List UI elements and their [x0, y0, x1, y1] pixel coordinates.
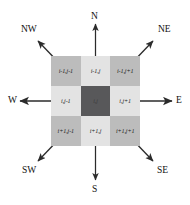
compass-label-n: N: [91, 12, 98, 22]
grid-cell-ne: i-1,j+1: [110, 56, 140, 86]
compass-label-nw: NW: [21, 25, 37, 35]
grid-cell-w: i,j-1: [51, 86, 81, 116]
compass-label-s: S: [92, 185, 97, 195]
grid-cell-s: i+1,j: [81, 116, 111, 146]
compass-label-e: E: [176, 96, 182, 106]
compass-label-se: SE: [157, 166, 168, 176]
grid-cell-center: i,j: [81, 86, 111, 116]
compass-label-ne: NE: [158, 25, 171, 35]
grid-cell-nw: i-1,j-1: [51, 56, 81, 86]
neighbourhood-compass-diagram: i-1,j-1 i-1,j i-1,j+1 i,j-1 i,j i,j+1 i+…: [0, 0, 190, 205]
grid-cell-sw: i+1,j-1: [51, 116, 81, 146]
grid-cell-n: i-1,j: [81, 56, 111, 86]
grid-cell-e: i,j+1: [110, 86, 140, 116]
neighbourhood-grid: i-1,j-1 i-1,j i-1,j+1 i,j-1 i,j i,j+1 i+…: [51, 56, 140, 146]
compass-label-w: W: [8, 96, 17, 106]
grid-cell-se: i+1,j+1: [110, 116, 140, 146]
compass-label-sw: SW: [22, 166, 36, 176]
